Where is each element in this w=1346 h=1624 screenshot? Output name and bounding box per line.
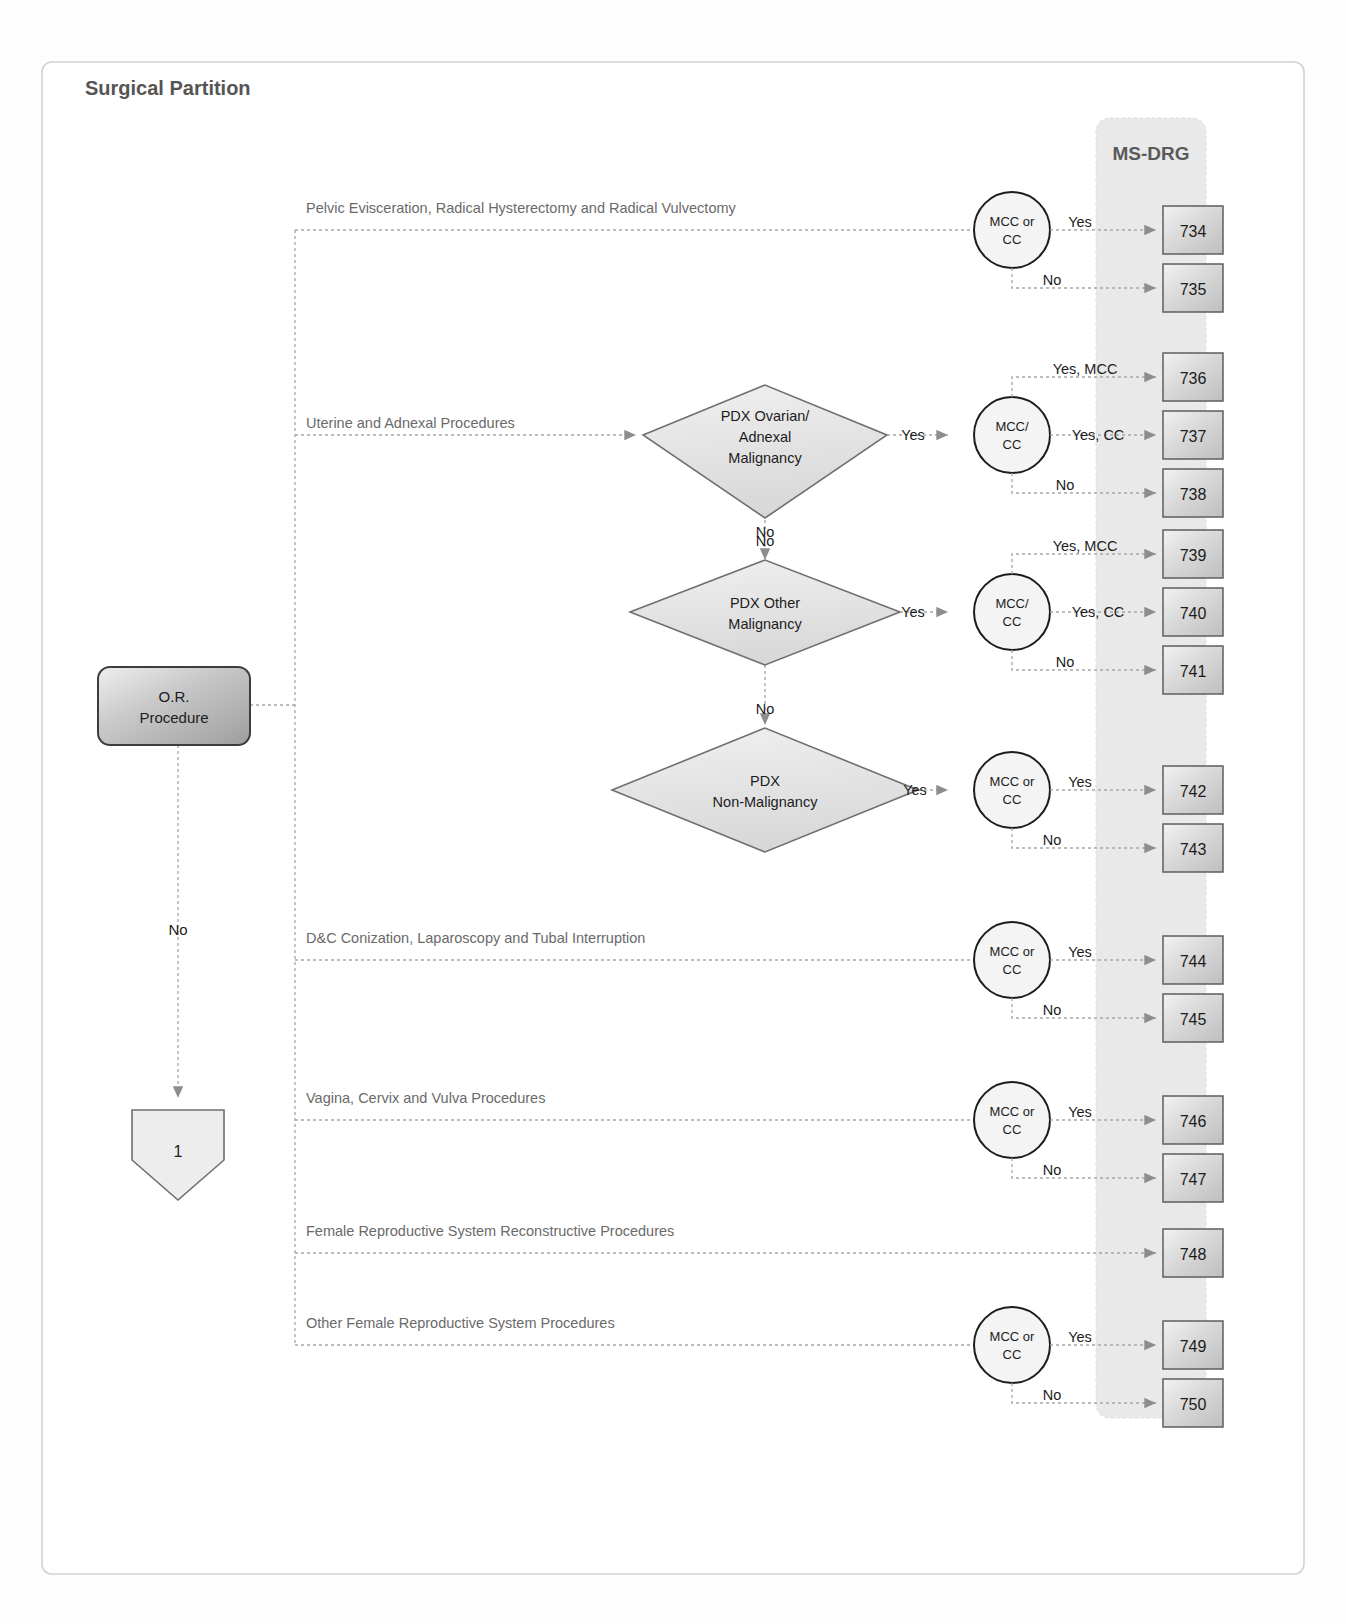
drg-box-label: 740 [1180, 605, 1207, 622]
drg-box-742[interactable]: 742 [1163, 766, 1223, 814]
drg-box-label: 750 [1180, 1396, 1207, 1413]
gate-label-line2: CC [1003, 614, 1022, 629]
decision-label-line3: Malignancy [728, 450, 802, 466]
gate-pelvic[interactable]: MCC or CC [974, 192, 1050, 268]
diagram-canvas: O.R. Procedure No 1 Surgical Partition M… [0, 0, 1346, 1624]
edge-label-746: Yes [1068, 1104, 1092, 1120]
drg-box-743[interactable]: 743 [1163, 824, 1223, 872]
drg-box-label: 746 [1180, 1113, 1207, 1130]
drg-box-748[interactable]: 748 [1163, 1229, 1223, 1277]
edge-label-736: Yes, MCC [1053, 361, 1118, 377]
edge-label-pelvic-no: No [1043, 272, 1062, 288]
gate-label-line2: CC [1003, 962, 1022, 977]
edge-label-non-malignancy-no: No [756, 701, 775, 717]
drg-box-label: 745 [1180, 1011, 1207, 1028]
gate-label-line1: MCC/ [995, 596, 1029, 611]
drg-box-750[interactable]: 750 [1163, 1379, 1223, 1427]
msdrg-column-header: MS-DRG [1112, 143, 1189, 164]
edge-label-739: Yes, MCC [1053, 538, 1118, 554]
entry-label-line2: Procedure [139, 709, 208, 726]
gate-label-line1: MCC or [990, 774, 1035, 789]
edge-label-738: No [1056, 477, 1075, 493]
edge-label-other-malignancy-no: No [756, 533, 775, 549]
drg-box-740[interactable]: 740 [1163, 588, 1223, 636]
decision-label-line2: Malignancy [728, 616, 802, 632]
drg-box-737[interactable]: 737 [1163, 411, 1223, 459]
edge-label-uterine-yes: Yes [901, 427, 925, 443]
gate-vagina-cervix-vulva[interactable]: MCC or CC [974, 1082, 1050, 1158]
decision-label-line1: PDX Other [730, 595, 800, 611]
drg-box-label: 749 [1180, 1338, 1207, 1355]
edge-label-745: No [1043, 1002, 1062, 1018]
drg-box-746[interactable]: 746 [1163, 1096, 1223, 1144]
branch-label-reconstructive: Female Reproductive System Reconstructiv… [306, 1223, 674, 1239]
drg-box-label: 742 [1180, 783, 1207, 800]
gate-label-line1: MCC or [990, 1329, 1035, 1344]
gate-label-line1: MCC or [990, 944, 1035, 959]
gate-dc-conization[interactable]: MCC or CC [974, 922, 1050, 998]
branch-label-vagina-cervix-vulva: Vagina, Cervix and Vulva Procedures [306, 1090, 545, 1106]
edge-label-749: Yes [1068, 1329, 1092, 1345]
gate-label-line2: CC [1003, 232, 1022, 247]
drg-box-739[interactable]: 739 [1163, 530, 1223, 578]
branch-label-dc-conization: D&C Conization, Laparoscopy and Tubal In… [306, 930, 645, 946]
edge-label-741: No [1056, 654, 1075, 670]
drg-box-749[interactable]: 749 [1163, 1321, 1223, 1369]
edge-label-non-malignancy-yes: Yes [903, 782, 927, 798]
drg-box-label: 736 [1180, 370, 1207, 387]
drg-box-735[interactable]: 735 [1163, 264, 1223, 312]
drg-box-736[interactable]: 736 [1163, 353, 1223, 401]
gate-label-line1: MCC or [990, 1104, 1035, 1119]
branch-label-other-female: Other Female Reproductive System Procedu… [306, 1315, 615, 1331]
drg-box-label: 744 [1180, 953, 1207, 970]
gate-other-malignancy[interactable]: MCC/ CC [974, 574, 1050, 650]
decision-label-line1: PDX [750, 773, 780, 789]
gate-label-line2: CC [1003, 1347, 1022, 1362]
offpage-connector-label: 1 [174, 1143, 183, 1160]
edge-label-740: Yes, CC [1072, 604, 1125, 620]
gate-label-line2: CC [1003, 437, 1022, 452]
drg-box-label: 741 [1180, 663, 1207, 680]
edge-label-pelvic-yes: Yes [1068, 214, 1092, 230]
drg-box-745[interactable]: 745 [1163, 994, 1223, 1042]
edge-label-744: Yes [1068, 944, 1092, 960]
branch-label-uterine: Uterine and Adnexal Procedures [306, 415, 515, 431]
gate-other-female[interactable]: MCC or CC [974, 1307, 1050, 1383]
drg-box-label: 735 [1180, 281, 1207, 298]
gate-label-line1: MCC or [990, 214, 1035, 229]
drg-box-744[interactable]: 744 [1163, 936, 1223, 984]
entry-node-or-procedure[interactable]: O.R. Procedure [98, 667, 250, 745]
edge-label-737: Yes, CC [1072, 427, 1125, 443]
drg-box-label: 743 [1180, 841, 1207, 858]
branch-label-pelvic: Pelvic Evisceration, Radical Hysterectom… [306, 200, 737, 216]
page-title: Surgical Partition [85, 77, 251, 99]
decision-label-line2: Non-Malignancy [713, 794, 819, 810]
gate-non-malignancy[interactable]: MCC or CC [974, 752, 1050, 828]
drg-box-734[interactable]: 734 [1163, 206, 1223, 254]
edge-label-other-malignancy-yes: Yes [901, 604, 925, 620]
drg-box-747[interactable]: 747 [1163, 1154, 1223, 1202]
drg-box-label: 748 [1180, 1246, 1207, 1263]
decision-label-line1: PDX Ovarian/ [721, 408, 811, 424]
drg-box-741[interactable]: 741 [1163, 646, 1223, 694]
edge-label-747: No [1043, 1162, 1062, 1178]
gate-label-line1: MCC/ [995, 419, 1029, 434]
drg-box-label: 739 [1180, 547, 1207, 564]
drg-box-label: 734 [1180, 223, 1207, 240]
decision-label-line2: Adnexal [739, 429, 791, 445]
gate-label-line2: CC [1003, 1122, 1022, 1137]
edge-label-743: No [1043, 832, 1062, 848]
edge-label-750: No [1043, 1387, 1062, 1403]
gate-label-line2: CC [1003, 792, 1022, 807]
entry-label-line1: O.R. [159, 688, 190, 705]
drg-box-label: 738 [1180, 486, 1207, 503]
drg-box-label: 747 [1180, 1171, 1207, 1188]
edge-label-742: Yes [1068, 774, 1092, 790]
drg-box-label: 737 [1180, 428, 1207, 445]
entry-no-edge-label: No [168, 921, 187, 938]
gate-uterine[interactable]: MCC/ CC [974, 397, 1050, 473]
drg-box-738[interactable]: 738 [1163, 469, 1223, 517]
